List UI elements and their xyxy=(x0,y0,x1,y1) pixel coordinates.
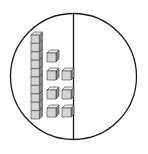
cube-front xyxy=(62,71,71,80)
cube-front xyxy=(31,102,39,110)
cube-front xyxy=(31,43,39,51)
unit-cube xyxy=(62,87,74,99)
unit-cube xyxy=(47,50,59,62)
cube-front xyxy=(62,108,71,117)
cube-front xyxy=(31,85,39,93)
cube-front xyxy=(47,71,56,80)
diagram-canvas xyxy=(0,0,148,154)
unit-cube xyxy=(62,68,74,80)
cube-front xyxy=(31,52,39,60)
cube-front xyxy=(47,108,56,117)
cube-front xyxy=(31,94,39,102)
cube-front xyxy=(31,77,39,85)
tens-rod xyxy=(31,32,42,119)
cube-front xyxy=(31,69,39,77)
unit-cube xyxy=(47,68,59,80)
base-ten-diagram xyxy=(0,0,148,154)
cube-front xyxy=(31,35,39,43)
cube-front xyxy=(47,90,56,99)
unit-cube xyxy=(47,87,59,99)
cube-front xyxy=(62,90,71,99)
unit-cube xyxy=(47,105,59,117)
unit-cube xyxy=(62,105,74,117)
cube-front xyxy=(47,53,56,62)
ones-cubes xyxy=(47,50,74,117)
cube-front xyxy=(31,60,39,68)
cube-front xyxy=(31,111,39,119)
left-region xyxy=(31,32,74,119)
